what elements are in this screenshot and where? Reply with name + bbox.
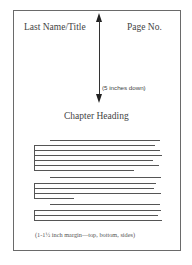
text-line [34,220,162,221]
text-line [50,177,161,178]
text-line [34,198,74,199]
paragraph-bracket [34,183,35,199]
text-line [34,193,161,194]
paragraph-bracket [34,145,35,171]
text-line [34,155,162,156]
text-line [50,204,160,205]
text-line [50,140,160,141]
text-line [34,170,134,171]
margin-note: (1-1½ inch margin—top, bottom, sides) [35,231,135,238]
text-line [34,210,161,211]
distance-label: (5 inches down) [102,84,146,91]
text-line [34,160,153,161]
text-line [34,183,156,184]
header-last-name-title: Last Name/Title [24,22,86,32]
text-line [34,145,155,146]
chapter-heading: Chapter Heading [64,111,129,121]
paragraph-bracket [34,210,35,221]
header-page-number: Page No. [127,22,162,32]
arrow-shaft [99,20,100,96]
text-line [34,165,159,166]
text-line [34,150,160,151]
arrow-down-icon [96,94,102,103]
text-line [34,188,154,189]
text-line [34,215,158,216]
